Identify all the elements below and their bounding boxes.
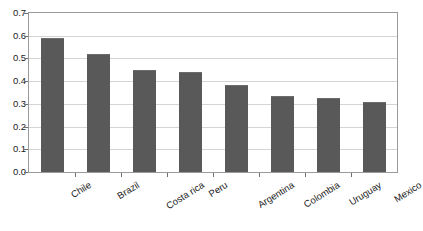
y-axis-tick-label: 0.0 [0, 167, 26, 177]
x-axis-tick-mark [351, 173, 352, 177]
y-axis-tick-label: 0.5 [0, 53, 26, 63]
x-axis-tick-mark [167, 173, 168, 177]
bar [41, 38, 64, 172]
y-axis-tick-label: 0.7 [0, 8, 26, 18]
bar [271, 96, 294, 172]
x-axis-category-label: Mexico [393, 180, 423, 204]
gridline [29, 58, 397, 59]
plot-area [28, 12, 398, 173]
x-axis-tick-mark [305, 173, 306, 177]
y-axis-tick-label: 0.4 [0, 76, 26, 86]
y-axis-tick-label: 0.1 [0, 144, 26, 154]
x-axis-category-label: Uruguay [347, 180, 382, 207]
x-axis-category-label: Costa rica [164, 180, 205, 211]
gridline [29, 36, 397, 37]
x-axis-tick-mark [75, 173, 76, 177]
bar [363, 102, 386, 172]
x-axis-category-label: Peru [207, 180, 229, 199]
x-axis-tick-mark [213, 173, 214, 177]
x-axis-tick-mark [121, 173, 122, 177]
bar [133, 70, 156, 172]
bar [225, 85, 248, 172]
bar [317, 98, 340, 172]
bar [87, 54, 110, 172]
y-axis-tick-label: 0.3 [0, 99, 26, 109]
y-axis-tick-label: 0.6 [0, 31, 26, 41]
gridline [29, 104, 397, 105]
x-axis-category-label: Colombia [302, 180, 341, 209]
x-axis-category-label: Brazil [116, 180, 141, 201]
gridline [29, 149, 397, 150]
x-axis-category-label: Chile [69, 180, 92, 200]
gridline [29, 81, 397, 82]
x-axis-tick-mark [259, 173, 260, 177]
x-axis-category-label: Argentina [256, 180, 296, 210]
bar [179, 72, 202, 172]
y-axis-tick-label: 0.2 [0, 122, 26, 132]
gridline [29, 127, 397, 128]
